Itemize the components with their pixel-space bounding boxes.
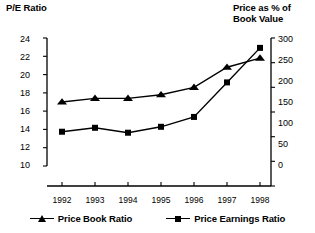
legend-label-price-book-ratio: Price Book Ratio bbox=[58, 213, 132, 224]
data-point-square bbox=[257, 45, 263, 51]
x-tick-1996: 1996 bbox=[177, 196, 211, 205]
x-tick-1998: 1998 bbox=[243, 196, 277, 205]
x-tick-1997: 1997 bbox=[210, 196, 244, 205]
data-point-square bbox=[125, 130, 131, 136]
data-point-square bbox=[92, 125, 98, 131]
pe-ratio-chart: P/E Ratio Price as % of Book Value 24 22… bbox=[0, 0, 315, 233]
square-marker-icon bbox=[166, 213, 190, 223]
legend-label-price-earnings-ratio: Price Earnings Ratio bbox=[194, 213, 285, 224]
x-tick-1995: 1995 bbox=[144, 196, 178, 205]
data-point-square bbox=[158, 124, 164, 130]
x-tick-1992: 1992 bbox=[45, 196, 79, 205]
series-line-square bbox=[62, 48, 260, 133]
x-tick-1993: 1993 bbox=[78, 196, 112, 205]
chart-legend: Price Book Ratio Price Earnings Ratio bbox=[0, 208, 315, 228]
legend-entry-price-earnings-ratio: Price Earnings Ratio bbox=[166, 213, 285, 224]
x-tick-1994: 1994 bbox=[111, 196, 145, 205]
series-layer bbox=[57, 45, 265, 136]
legend-entry-price-book-ratio: Price Book Ratio bbox=[30, 213, 132, 224]
data-point-triangle bbox=[255, 54, 265, 60]
data-point-square bbox=[224, 79, 230, 85]
triangle-marker-icon bbox=[30, 213, 54, 223]
data-point-square bbox=[59, 129, 65, 135]
data-point-square bbox=[191, 114, 197, 120]
